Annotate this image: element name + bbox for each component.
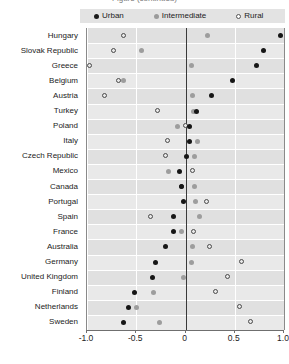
data-point-urban xyxy=(121,320,126,325)
data-point-intermediate xyxy=(181,275,186,280)
row-bands xyxy=(87,28,284,330)
x-gridline xyxy=(235,28,236,330)
data-point-urban xyxy=(278,33,283,38)
data-point-rural xyxy=(116,78,121,83)
data-point-urban xyxy=(194,109,199,114)
data-point-urban xyxy=(132,290,137,295)
legend-label-urban: Urban xyxy=(102,12,124,20)
y-axis-label-netherlands: Netherlands xyxy=(0,302,78,311)
data-point-urban xyxy=(187,139,192,144)
data-point-rural xyxy=(102,93,107,98)
data-point-urban xyxy=(126,305,131,310)
data-point-rural xyxy=(148,214,153,219)
y-axis-label-turkey: Turkey xyxy=(0,106,78,115)
y-axis-label-slovak-republic: Slovak Republic xyxy=(0,46,78,55)
data-point-intermediate xyxy=(205,33,210,38)
chart-legend: Urban Intermediate Rural xyxy=(80,9,285,23)
data-point-intermediate xyxy=(192,184,197,189)
y-axis-label-poland: Poland xyxy=(0,121,78,130)
y-axis-label-austria: Austria xyxy=(0,91,78,100)
data-point-rural xyxy=(155,108,160,113)
data-point-intermediate xyxy=(192,154,197,159)
data-point-intermediate xyxy=(193,199,198,204)
legend-item-urban: Urban xyxy=(94,12,124,20)
y-axis-label-hungary: Hungary xyxy=(0,31,78,40)
legend-label-rural: Rural xyxy=(244,12,263,20)
chart-root: Figure (continued) Urban Intermediate Ru… xyxy=(0,0,289,364)
data-point-intermediate xyxy=(134,305,139,310)
x-tick-label: 0 xyxy=(170,333,200,343)
y-axis-label-italy: Italy xyxy=(0,136,78,145)
zero-reference-line xyxy=(186,28,187,330)
clipped-title-text: Figure (continued) xyxy=(0,0,289,3)
data-point-rural xyxy=(87,63,92,68)
data-point-intermediate xyxy=(195,139,200,144)
y-axis-label-greece: Greece xyxy=(0,61,78,70)
data-point-intermediate xyxy=(139,48,144,53)
y-axis-label-australia: Australia xyxy=(0,242,78,251)
y-axis-label-united-kingdom: United Kingdom xyxy=(0,272,78,281)
legend-label-intermediate: Intermediate xyxy=(162,12,206,20)
data-point-urban xyxy=(187,124,192,129)
data-point-rural xyxy=(239,259,244,264)
y-axis-label-france: France xyxy=(0,227,78,236)
y-axis-label-spain: Spain xyxy=(0,212,78,221)
y-axis-label-sweden: Sweden xyxy=(0,317,78,326)
y-axis-label-germany: Germany xyxy=(0,257,78,266)
x-tick-label: 0.5 xyxy=(219,333,249,343)
data-point-rural xyxy=(111,48,116,53)
legend-item-rural: Rural xyxy=(236,12,263,20)
x-tick-label: 1.0 xyxy=(268,333,289,343)
legend-item-intermediate: Intermediate xyxy=(154,12,206,20)
rural-marker-icon xyxy=(236,14,241,19)
x-tick-label: -1.0 xyxy=(71,333,101,343)
data-point-intermediate xyxy=(189,260,194,265)
y-axis-label-portugal: Portugal xyxy=(0,197,78,206)
plot-area xyxy=(86,28,285,330)
intermediate-marker-icon xyxy=(154,14,159,19)
y-axis-label-mexico: Mexico xyxy=(0,166,78,175)
data-point-urban xyxy=(177,169,182,174)
y-axis-label-finland: Finland xyxy=(0,287,78,296)
data-point-urban xyxy=(261,48,266,53)
x-gridline xyxy=(87,28,88,330)
x-gridline xyxy=(136,28,137,330)
clipped-title: Figure (continued) xyxy=(0,0,289,8)
urban-marker-icon xyxy=(94,14,99,19)
data-point-rural xyxy=(225,274,230,279)
y-axis-label-czech-republic: Czech Republic xyxy=(0,151,78,160)
data-point-urban xyxy=(184,154,189,159)
x-tick-label: -0.5 xyxy=(120,333,150,343)
y-axis-label-belgium: Belgium xyxy=(0,76,78,85)
y-axis-label-canada: Canada xyxy=(0,182,78,191)
data-point-intermediate xyxy=(175,124,180,129)
data-point-rural xyxy=(204,199,209,204)
